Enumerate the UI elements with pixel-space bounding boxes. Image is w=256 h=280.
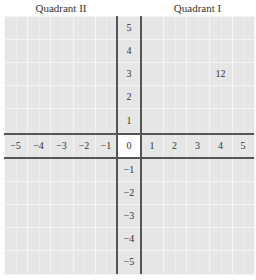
y-tick-label: −3 [117, 204, 141, 227]
coordinate-grid: −5−4−3−2−101234554321−1−2−3−4−512 [4, 16, 254, 274]
grid-line-vertical [254, 16, 255, 274]
x-tick-label: −4 [27, 134, 50, 158]
y-tick-label: 2 [117, 85, 141, 108]
x-tick-label: 3 [186, 134, 209, 158]
x-tick-label: −3 [50, 134, 73, 158]
quadrant-i-label: Quadrant I [141, 0, 254, 16]
x-tick-label: −2 [73, 134, 95, 158]
y-tick-label: −1 [117, 158, 141, 181]
y-tick-label: 5 [117, 16, 141, 39]
quadrant-ii-label: Quadrant II [4, 0, 118, 16]
y-tick-label: 4 [117, 39, 141, 62]
origin-label: 0 [117, 134, 141, 158]
x-tick-label: 1 [141, 134, 163, 158]
y-tick-label: −4 [117, 227, 141, 250]
x-tick-label: 5 [232, 134, 254, 158]
x-tick-label: 4 [209, 134, 232, 158]
x-tick-label: 2 [163, 134, 186, 158]
y-tick-label: −2 [117, 181, 141, 204]
y-tick-label: −5 [117, 250, 141, 274]
y-tick-label: 3 [117, 62, 141, 85]
grid-line-horizontal [4, 274, 254, 275]
x-tick-label: −1 [95, 134, 117, 158]
x-tick-label: −5 [4, 134, 27, 158]
y-tick-label: 1 [117, 108, 141, 134]
point-annotation: 12 [209, 62, 232, 85]
